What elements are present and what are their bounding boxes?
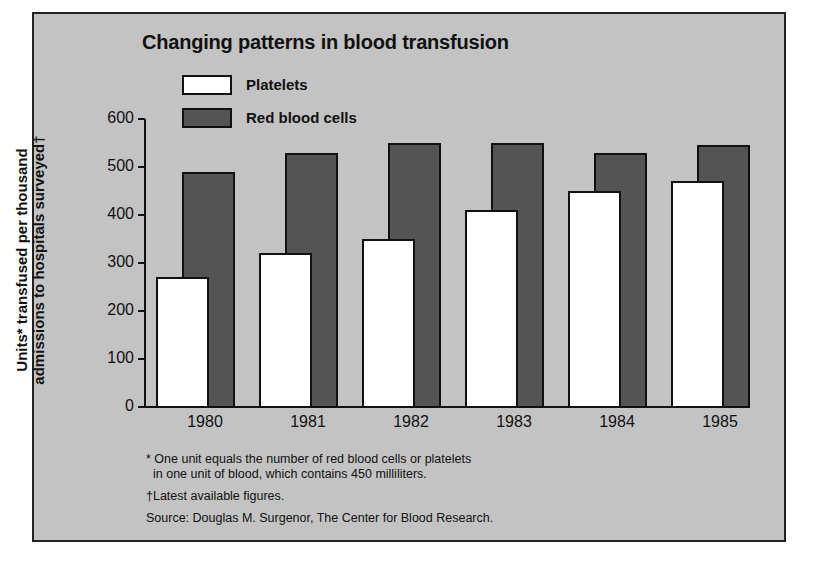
y-tick-label: 100: [94, 349, 134, 367]
y-tick-label: 400: [94, 205, 134, 223]
x-tick-label: 1984: [587, 413, 647, 431]
bar-platelets-1984: [568, 191, 621, 408]
y-tick-label: 300: [94, 253, 134, 271]
bar-platelets-1980: [156, 277, 209, 408]
y-tick: [138, 214, 145, 216]
legend-label-rbc: Red blood cells: [246, 109, 357, 126]
x-tick-label: 1981: [278, 413, 338, 431]
x-tick-label: 1980: [175, 413, 235, 431]
x-tick-label: 1983: [484, 413, 544, 431]
y-axis-label: Units* transfused per thousand admission…: [13, 135, 47, 384]
bar-platelets-1983: [465, 210, 518, 408]
legend-swatch-rbc: [182, 108, 232, 128]
y-tick-label: 200: [94, 301, 134, 319]
y-tick: [138, 118, 145, 120]
x-tick-label: 1985: [690, 413, 750, 431]
y-tick: [138, 262, 145, 264]
footnote-unit-line-2: in one unit of blood, which contains 450…: [153, 467, 427, 481]
footnote-latest: †Latest available figures.: [146, 489, 284, 503]
y-axis-label-line-2: admissions to hospitals surveyed†: [30, 135, 47, 384]
legend-swatch-platelets: [182, 75, 232, 95]
y-tick: [138, 310, 145, 312]
y-tick-label: 500: [94, 157, 134, 175]
bar-platelets-1982: [362, 239, 415, 408]
bar-platelets-1985: [671, 181, 724, 408]
x-tick-label: 1982: [381, 413, 441, 431]
y-tick-label: 0: [94, 397, 134, 415]
y-tick: [138, 166, 145, 168]
chart-title: Changing patterns in blood transfusion: [142, 31, 509, 54]
footnote-unit-line-1: * One unit equals the number of red bloo…: [146, 452, 471, 466]
y-tick-label: 600: [94, 109, 134, 127]
legend-label-platelets: Platelets: [246, 76, 308, 93]
bar-platelets-1981: [259, 253, 312, 408]
y-axis-label-line-1: Units* transfused per thousand: [13, 135, 30, 384]
y-tick: [138, 406, 145, 408]
y-tick: [138, 358, 145, 360]
source-note: Source: Douglas M. Surgenor, The Center …: [146, 511, 493, 525]
